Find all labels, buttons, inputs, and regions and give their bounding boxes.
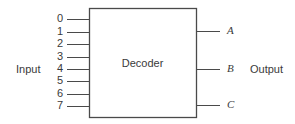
input-pin-label-5: 5: [53, 75, 63, 86]
output-pin-label-a: A: [227, 25, 234, 36]
output-pin-label-c: C: [227, 99, 234, 110]
input-pin-label-7: 7: [53, 100, 63, 111]
input-pin-label-3: 3: [53, 51, 63, 62]
decoder-block-label: Decoder: [122, 57, 164, 68]
input-pin-label-2: 2: [53, 38, 63, 49]
input-pin-label-1: 1: [53, 26, 63, 37]
input-pin-label-0: 0: [53, 13, 63, 24]
output-pin-label-b: B: [227, 63, 234, 74]
output-group-label: Output: [250, 64, 283, 75]
input-pin-label-6: 6: [53, 88, 63, 99]
diagram-canvas: 0 1 2 3 4 5 6 7 Input Decoder A B C Outp…: [0, 0, 295, 124]
input-group-label: Input: [16, 64, 40, 75]
input-pin-label-4: 4: [53, 63, 63, 74]
